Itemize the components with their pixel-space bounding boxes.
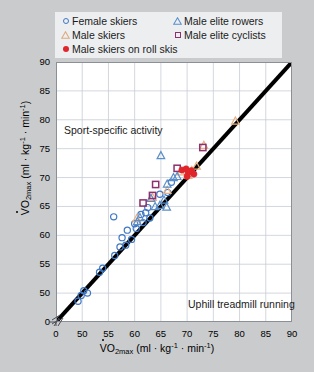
legend-row-1: Female skiers Male elite rowers	[59, 14, 278, 28]
chart-root: Female skiers Male elite rowers Male ski…	[0, 0, 314, 372]
x-tick-80: 80	[228, 328, 252, 339]
x-tick-85: 85	[254, 328, 278, 339]
y-axis-title: VO2max (ml · kg-1 · min-1)	[19, 78, 31, 238]
y-tick-50: 50	[26, 287, 50, 298]
legend-label-female-skiers: Female skiers	[72, 16, 137, 27]
y-tick-55: 55	[26, 258, 50, 269]
y-axis-sup1: -1	[18, 137, 27, 144]
x-axis-title: VO2max (ml · kg-1 · min-1)	[0, 342, 314, 354]
legend-label-male-skiers-roll-skis: Male skiers on roll skis	[72, 44, 178, 55]
legend-item-male-skiers: Male skiers	[59, 30, 171, 41]
legend-item-male-skiers-roll-skis: Male skiers on roll skis	[59, 44, 178, 55]
legend-label-male-elite-cyclists: Male elite cyclists	[184, 30, 266, 41]
x-tick-90: 90	[280, 328, 304, 339]
circle-filled-red-icon	[59, 46, 72, 52]
x-tick-50: 50	[70, 328, 94, 339]
x-axis-v-symbol: V	[100, 342, 107, 354]
x-axis-sup2: -1	[204, 341, 211, 350]
x-tick-55: 55	[96, 328, 120, 339]
legend-label-male-skiers: Male skiers	[72, 30, 125, 41]
x-tick-70: 70	[175, 328, 199, 339]
x-tick-75: 75	[201, 328, 225, 339]
chart-legend: Female skiers Male elite rowers Male ski…	[55, 12, 282, 58]
x-tick-0: 0	[44, 328, 68, 339]
y-axis-v-symbol: V	[19, 208, 31, 215]
legend-label-male-elite-rowers: Male elite rowers	[184, 16, 263, 27]
y-axis-units-open: (ml · kg	[19, 144, 31, 182]
x-axis-subscript: 2max	[115, 347, 133, 356]
annotation-uphill-treadmill: Uphill treadmill running	[188, 298, 295, 310]
x-axis-o: O	[107, 342, 115, 354]
x-axis-close: )	[211, 342, 215, 354]
triangle-open-blue-icon	[171, 17, 184, 25]
legend-item-female-skiers: Female skiers	[59, 16, 171, 27]
scatter-plot-svg	[56, 62, 292, 322]
x-tick-65: 65	[149, 328, 173, 339]
circle-open-blue-icon	[59, 18, 72, 24]
annotation-sport-specific: Sport-specific activity	[64, 124, 163, 136]
legend-row-2: Male skiers Male elite cyclists	[59, 28, 278, 42]
x-axis-units-open: (ml · kg	[133, 342, 171, 354]
square-open-purple-icon	[171, 32, 184, 38]
legend-row-3: Male skiers on roll skis	[59, 42, 278, 56]
y-axis-mid: · min	[19, 111, 31, 137]
y-axis-sup2: -1	[18, 104, 27, 111]
y-tick-90: 90	[26, 56, 50, 67]
x-tick-60: 60	[123, 328, 147, 339]
y-tick-0: 0	[26, 316, 50, 327]
x-axis-sup1: -1	[171, 341, 178, 350]
triangle-open-orange-icon	[59, 31, 72, 39]
plot-area	[56, 62, 292, 322]
x-axis-mid: · min	[178, 342, 204, 354]
legend-item-male-elite-cyclists: Male elite cyclists	[171, 30, 266, 41]
y-axis-subscript: 2max	[24, 182, 33, 200]
legend-item-male-elite-rowers: Male elite rowers	[171, 16, 263, 27]
